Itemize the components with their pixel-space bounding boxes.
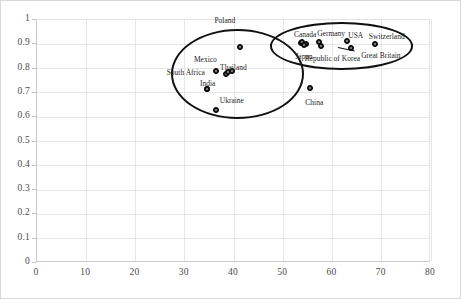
y-axis-tick-mark bbox=[32, 262, 36, 263]
gridline-horizontal bbox=[37, 190, 429, 191]
y-axis-tick-mark bbox=[32, 43, 36, 44]
gridline-horizontal bbox=[37, 214, 429, 215]
data-point-label: Great Britain bbox=[361, 52, 400, 60]
y-axis-tick-label: 0.9 bbox=[0, 38, 30, 48]
data-point-marker[interactable] bbox=[348, 45, 354, 51]
data-point-marker[interactable] bbox=[213, 107, 219, 113]
x-axis-tick-label: 60 bbox=[317, 268, 347, 278]
data-point-marker[interactable] bbox=[237, 44, 243, 50]
y-axis-tick-mark bbox=[32, 116, 36, 117]
x-axis-tick-label: 50 bbox=[267, 268, 297, 278]
data-point-marker[interactable] bbox=[213, 68, 219, 74]
x-axis-tick-label: 70 bbox=[366, 268, 396, 278]
y-axis-tick-mark bbox=[32, 92, 36, 93]
data-point-label: South Africa bbox=[167, 69, 205, 77]
y-axis-tick-mark bbox=[32, 19, 36, 20]
data-point-marker[interactable] bbox=[318, 43, 324, 49]
data-point-label: Mexico bbox=[194, 56, 217, 64]
data-point-label: Switzerland bbox=[369, 33, 405, 41]
y-axis-tick-label: 0.4 bbox=[0, 160, 30, 170]
data-point-label: Canada bbox=[294, 31, 317, 39]
x-axis-tick-label: 80 bbox=[415, 268, 445, 278]
data-point-marker[interactable] bbox=[307, 85, 313, 91]
gridline-horizontal bbox=[37, 165, 429, 166]
y-axis-tick-mark bbox=[32, 141, 36, 142]
y-axis-tick-mark bbox=[32, 213, 36, 214]
data-point-label: Germany bbox=[317, 30, 345, 38]
data-point-marker[interactable] bbox=[301, 42, 307, 48]
data-point-label: Thailand bbox=[220, 64, 247, 72]
y-axis-tick-label: 0 bbox=[0, 257, 30, 267]
y-axis-tick-label: 0.5 bbox=[0, 136, 30, 146]
y-axis-tick-mark bbox=[32, 68, 36, 69]
data-point-label: India bbox=[200, 80, 215, 88]
y-axis-tick-label: 0.3 bbox=[0, 184, 30, 194]
data-point-label: USA bbox=[348, 32, 363, 40]
data-point-label: Ukraine bbox=[220, 97, 244, 105]
data-point-label: China bbox=[305, 99, 323, 107]
x-axis-tick-label: 40 bbox=[218, 268, 248, 278]
x-axis-tick-label: 10 bbox=[70, 268, 100, 278]
gridline-vertical bbox=[431, 20, 432, 261]
data-point-marker[interactable] bbox=[372, 41, 378, 47]
y-axis-tick-mark bbox=[32, 165, 36, 166]
x-axis-tick-label: 20 bbox=[120, 268, 150, 278]
y-axis-tick-mark bbox=[32, 189, 36, 190]
data-point-label: Republic of Korea bbox=[305, 55, 360, 63]
data-point-label: Poland bbox=[214, 17, 235, 25]
y-axis-tick-label: 0.8 bbox=[0, 63, 30, 73]
gridline-horizontal bbox=[37, 238, 429, 239]
y-axis-tick-label: 0.6 bbox=[0, 111, 30, 121]
y-axis-tick-label: 1 bbox=[0, 14, 30, 24]
y-axis-tick-label: 0.1 bbox=[0, 233, 30, 243]
x-axis-tick-label: 0 bbox=[21, 268, 51, 278]
gridline-horizontal bbox=[37, 141, 429, 142]
y-axis-tick-mark bbox=[32, 238, 36, 239]
x-axis-tick-label: 30 bbox=[169, 268, 199, 278]
y-axis-tick-label: 0.2 bbox=[0, 208, 30, 218]
y-axis-tick-label: 0.7 bbox=[0, 87, 30, 97]
scatter-chart: 00.10.20.30.40.50.60.70.80.9101020304050… bbox=[0, 0, 461, 299]
